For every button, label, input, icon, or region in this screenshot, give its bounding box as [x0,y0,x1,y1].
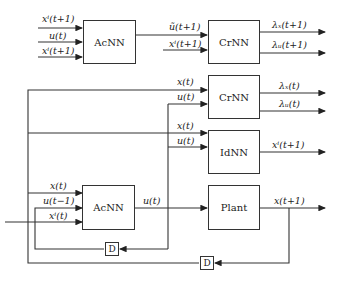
crnn-mid-output-1: λₓ(t) [279,81,300,91]
acnn-top-label: AcNN [94,37,124,48]
crnn-mid-input-1: x(t) [177,77,194,87]
crnn-top-label: CrNN [219,37,249,48]
delay-2-label: D [203,258,210,268]
crnn-mid-output-2: λᵤ(t) [279,99,300,109]
acnn-top-input-2: u(t) [49,31,66,41]
delay-block-1: D [105,242,119,256]
idnn-input-1: x(t) [177,121,194,131]
idnn-output: xⁱ(t+1) [272,140,305,150]
crnn-mid-input-2: u(t) [177,92,194,102]
acnn-bottom-input-1: x(t) [50,181,67,191]
acnn-bottom-input-2: u(t−1) [43,196,74,206]
plant-output: x(t+1) [274,196,305,206]
plant-block: Plant [208,185,260,230]
idnn-input-2: u(t) [177,136,194,146]
idnn-block: IdNN [208,130,260,174]
idnn-label: IdNN [220,147,248,158]
crnn-top-block: CrNN [208,20,260,64]
crnn-top-input-1: ũ(t+1) [169,22,200,32]
crnn-top-input-2: xⁱ(t+1) [169,39,202,49]
plant-label: Plant [221,202,247,213]
acnn-bottom-input-3: xⁱ(t) [49,211,68,221]
delay-1-label: D [108,244,115,254]
acnn-top-input-3: xⁱ(t+1) [42,46,75,56]
acnn-top-input-1: xⁱ(t+1) [42,14,75,24]
acnn-bottom-block: AcNN [82,185,135,230]
crnn-top-output-1: λₓ(t+1) [272,20,307,30]
crnn-mid-label: CrNN [219,92,249,103]
crnn-top-output-2: λᵤ(t+1) [272,40,307,50]
delay-block-2: D [200,256,214,270]
acnn-bottom-output: u(t) [143,196,160,206]
acnn-bottom-label: AcNN [93,202,123,213]
crnn-mid-block: CrNN [208,75,260,119]
acnn-top-block: AcNN [83,20,136,64]
